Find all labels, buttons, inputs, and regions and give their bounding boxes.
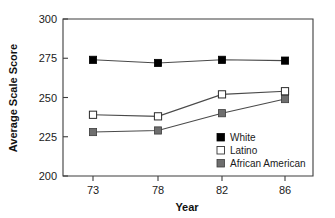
legend: White Latino African American — [217, 132, 306, 169]
y-tick-label: 200 — [39, 170, 57, 182]
data-point-marker — [89, 56, 96, 63]
data-point-marker — [281, 88, 288, 95]
series-lines — [93, 60, 285, 132]
y-tick-label: 275 — [39, 52, 57, 64]
legend-label-latino: Latino — [230, 145, 258, 156]
legend-label-white: White — [230, 132, 256, 143]
data-point-marker — [154, 127, 161, 134]
data-point-marker — [89, 111, 96, 118]
x-axis-tick-labels: 73 78 82 86 — [87, 184, 291, 196]
line-chart: 300 275 250 225 200 73 78 82 86 Year Ave… — [0, 0, 335, 218]
legend-swatch-african-american — [217, 160, 225, 168]
y-tick-label: 250 — [39, 92, 57, 104]
data-point-marker — [154, 59, 161, 66]
y-tick-label: 225 — [39, 131, 57, 143]
chart-container: 300 275 250 225 200 73 78 82 86 Year Ave… — [0, 0, 335, 218]
x-tick-label: 73 — [87, 184, 99, 196]
y-axis-title: Average Scale Score — [7, 44, 19, 152]
legend-swatch-white — [217, 134, 225, 142]
x-tick-label: 82 — [216, 184, 228, 196]
x-tick-label: 86 — [279, 184, 291, 196]
data-point-marker — [218, 56, 225, 63]
data-point-marker — [218, 91, 225, 98]
x-tick-label: 78 — [152, 184, 164, 196]
x-axis-title: Year — [175, 201, 199, 213]
y-tick-label: 300 — [39, 13, 57, 25]
data-point-marker — [89, 128, 96, 135]
data-point-marker — [154, 113, 161, 120]
y-axis-tick-labels: 300 275 250 225 200 — [39, 13, 57, 182]
plot-frame — [63, 19, 313, 176]
series-line-white — [93, 60, 285, 63]
x-axis-ticks — [93, 176, 285, 181]
legend-swatch-latino — [217, 147, 225, 155]
legend-label-african-american: African American — [230, 158, 306, 169]
data-point-marker — [281, 95, 288, 102]
series-line-latino — [93, 91, 285, 116]
y-axis-ticks — [63, 19, 68, 176]
data-point-marker — [218, 110, 225, 117]
data-point-marker — [281, 57, 288, 64]
